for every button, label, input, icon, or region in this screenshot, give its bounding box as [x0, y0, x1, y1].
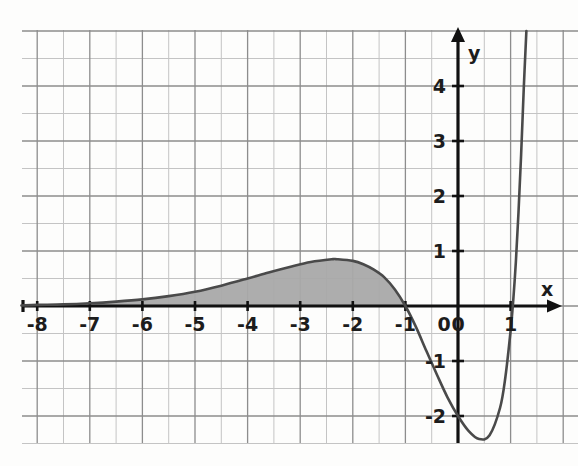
x-tick-label: -5 — [184, 313, 205, 335]
x-tick-label: -4 — [237, 313, 258, 335]
y-tick-label: -2 — [425, 405, 446, 427]
y-tick-label: 3 — [433, 130, 446, 152]
x-axis-arrow-icon — [547, 300, 562, 313]
x-tick-label: -1 — [395, 313, 416, 335]
y-tick-label: 1 — [433, 240, 446, 262]
graph-figure: -8-7-6-5-4-3-2-101-2-101234 x y — [0, 0, 578, 466]
y-tick-label: 4 — [433, 75, 446, 97]
shaded-area-fill — [21, 259, 405, 306]
y-axis-label: y — [468, 42, 481, 64]
x-tick-label: -7 — [79, 313, 100, 335]
y-axis-arrow-icon — [451, 27, 465, 42]
shaded-area-region — [21, 259, 405, 306]
y-tick-label: -1 — [425, 350, 446, 372]
major-gridlines — [22, 30, 578, 443]
x-axis-label: x — [541, 278, 553, 300]
x-tick-label: -6 — [132, 313, 153, 335]
x-tick-label: -3 — [290, 313, 311, 335]
y-tick-label: 0 — [437, 313, 450, 335]
x-tick-label: -2 — [342, 313, 363, 335]
y-tick-label: 2 — [433, 185, 446, 207]
x-tick-label: 1 — [504, 313, 517, 335]
graph-canvas: -8-7-6-5-4-3-2-101-2-101234 x y — [0, 0, 578, 466]
x-tick-label: 0 — [451, 313, 464, 335]
x-tick-label: -8 — [27, 313, 48, 335]
y-axis — [451, 27, 465, 443]
